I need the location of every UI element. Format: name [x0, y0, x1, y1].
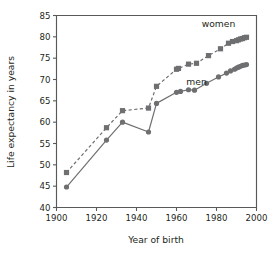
x-tick-label: 1900 [46, 213, 68, 223]
y-tick-label: 80 [40, 32, 51, 42]
data-point-men [192, 88, 197, 93]
y-axis-title: Life expectancy in years [5, 56, 16, 168]
data-point-men [104, 137, 109, 142]
x-tick-label: 1940 [126, 213, 148, 223]
chart-container: 40455055606570758085 1900192019401960198… [0, 0, 279, 253]
data-point-men [186, 87, 191, 92]
data-point-men [244, 62, 249, 67]
y-tick-label: 70 [40, 75, 51, 85]
data-point-men [154, 101, 159, 106]
x-tick-label: 1980 [206, 213, 228, 223]
data-point-men [64, 184, 69, 189]
y-tick-label: 40 [40, 203, 51, 213]
data-point-women [186, 62, 191, 67]
x-tick-label: 1920 [86, 213, 108, 223]
x-tick-label: 2000 [246, 213, 268, 223]
series-label-women: women [202, 18, 236, 29]
y-tick-label: 75 [40, 53, 51, 63]
x-axis-title: Year of birth [127, 234, 184, 245]
data-point-men [216, 74, 221, 79]
data-point-women [104, 125, 109, 130]
data-point-women [146, 105, 151, 110]
data-point-women [120, 108, 125, 113]
data-point-women [64, 170, 69, 175]
y-tick-label: 50 [40, 160, 51, 170]
y-tick-label: 55 [40, 139, 51, 149]
y-tick-label: 60 [40, 117, 51, 127]
x-tick-label: 1960 [166, 213, 188, 223]
y-tick-label: 45 [40, 181, 51, 191]
data-point-women [206, 53, 211, 58]
life-expectancy-line-chart: 40455055606570758085 1900192019401960198… [0, 0, 279, 253]
data-point-women [154, 84, 159, 89]
data-point-men [178, 89, 183, 94]
series-label-men: men [186, 76, 207, 87]
data-point-men [120, 120, 125, 125]
y-tick-label: 65 [40, 96, 51, 106]
data-point-women [218, 46, 223, 51]
data-point-women [244, 35, 249, 40]
data-point-women [194, 61, 199, 66]
data-point-women [176, 66, 181, 71]
y-tick-label: 85 [40, 11, 51, 21]
data-point-men [146, 129, 151, 134]
